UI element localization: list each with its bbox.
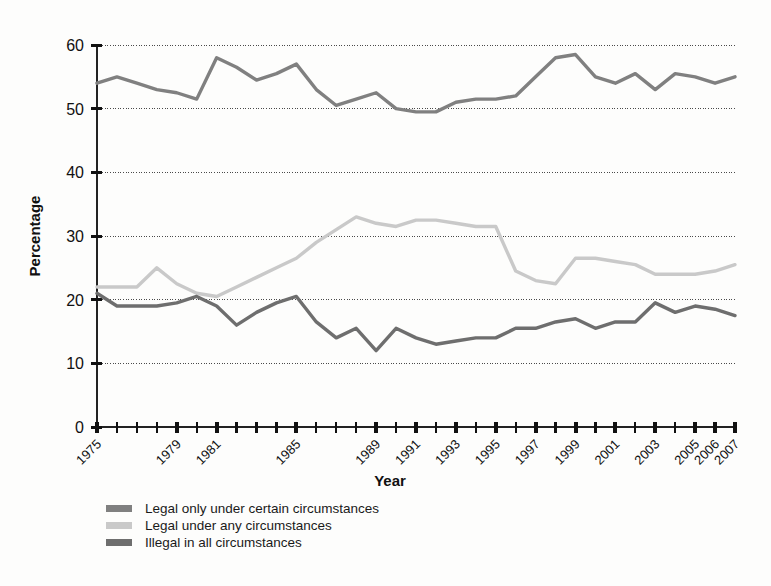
gridlines [97, 45, 735, 363]
y-tick-label: 20 [66, 292, 84, 309]
y-tick-label: 10 [66, 355, 84, 372]
x-axis-title: Year [374, 472, 406, 489]
legend-item: Legal under any circumstances [106, 517, 466, 534]
x-tick-label: 2003 [631, 437, 662, 468]
x-tick-label: 1979 [153, 437, 184, 468]
y-tick-labels: 6050403020100 [66, 37, 84, 436]
data-series-group [97, 55, 735, 351]
x-tick-label: 1999 [552, 437, 583, 468]
y-tick-label: 0 [75, 419, 84, 436]
y-axis-title: Percentage [26, 196, 43, 277]
y-tick-label: 50 [66, 101, 84, 118]
series-line-1 [97, 55, 735, 112]
axis-lines [97, 45, 735, 427]
series-line-2 [97, 217, 735, 297]
legend-label: Illegal in all circumstances [145, 534, 302, 551]
series-line-3 [97, 293, 735, 350]
x-tick-label: 1997 [512, 437, 543, 468]
y-tick-label: 40 [66, 164, 84, 181]
legend-item: Legal only under certain circumstances [106, 500, 466, 517]
x-tick-label: 1975 [73, 437, 104, 468]
x-tick-labels: 1975197919811985198919911993199519971999… [73, 437, 742, 468]
x-tick-label: 2001 [591, 437, 622, 468]
x-tick-label: 1989 [352, 437, 383, 468]
legend-swatch-icon [106, 539, 132, 546]
x-tick-label: 1985 [272, 437, 303, 468]
x-tick-label: 1995 [472, 437, 503, 468]
legend-swatch-icon [106, 505, 132, 512]
y-tick-label: 30 [66, 228, 84, 245]
legend-item: Illegal in all circumstances [106, 534, 466, 551]
x-tick-label: 1991 [392, 437, 423, 468]
legend-label: Legal only under certain circumstances [145, 500, 379, 517]
legend-label: Legal under any circumstances [145, 517, 332, 534]
x-tick-label: 1981 [193, 437, 224, 468]
legend-swatch-icon [106, 522, 132, 529]
y-tick-label: 60 [66, 37, 84, 54]
chart-figure: 6050403020100 19751979198119851989199119… [0, 0, 771, 586]
x-tick-label: 1993 [432, 437, 463, 468]
chart-legend: Legal only under certain circumstancesLe… [106, 500, 466, 551]
line-chart: 6050403020100 19751979198119851989199119… [0, 0, 771, 586]
